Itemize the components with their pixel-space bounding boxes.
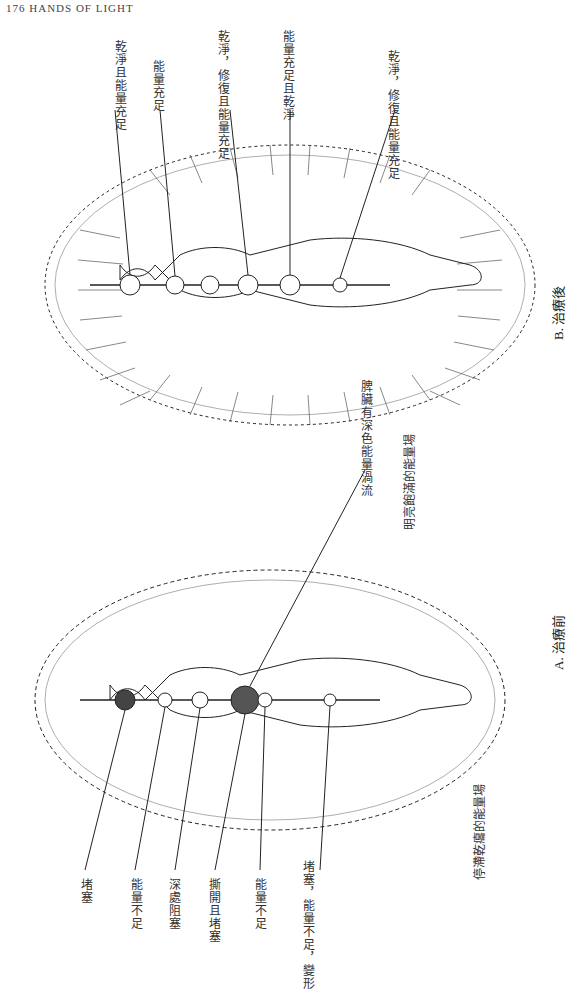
label-a-solar-plexus: 能量不足: [252, 878, 266, 930]
label-b-heart: 乾淨，修復且能量充足: [215, 30, 229, 160]
label-a-crown: 堵塞: [78, 878, 92, 904]
field-label-b: 明亮飽滿的能量場: [400, 434, 417, 530]
field-label-a: 停滯乾癟的能量場: [470, 784, 487, 880]
caption-b: B. 治療後: [548, 286, 567, 340]
label-a-throat: 深處阻塞: [166, 878, 180, 930]
caption-a: A. 治療前: [548, 615, 567, 670]
label-b-crown: 乾淨且能量充足: [112, 40, 126, 131]
figure-a-before-healing: [35, 470, 505, 870]
label-b-third-eye: 能量充足: [150, 60, 164, 112]
label-a-spleen: 脾臟有深色能量渦流: [358, 380, 372, 497]
figure-b-after-healing: [45, 110, 535, 425]
label-a-third-eye: 能量不足: [128, 878, 142, 930]
label-a-heart: 撕開且堵塞: [206, 878, 220, 943]
label-a-root: 堵塞，能量不足，變形: [300, 860, 314, 942]
label-b-solar-plexus: 能量充足且乾淨: [280, 30, 294, 121]
label-b-root: 乾淨，修復且能量充足: [385, 50, 399, 180]
